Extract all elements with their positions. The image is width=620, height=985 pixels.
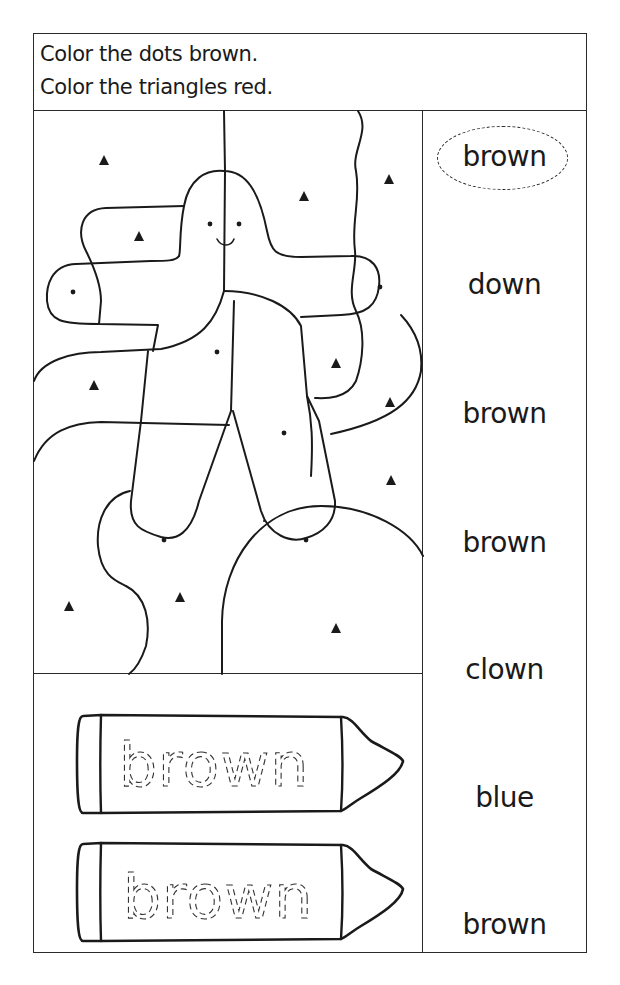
word-list: brown down brown brown clown blue brown	[423, 111, 586, 952]
hidden-picture-drawing[interactable]	[34, 111, 423, 674]
trace-word-1[interactable]: brown	[119, 730, 309, 800]
crayons-drawing: brown brown	[34, 674, 423, 952]
word-item-3[interactable]: brown	[423, 397, 586, 431]
word-item-1[interactable]: brown	[423, 140, 586, 174]
word-text: blue	[475, 781, 534, 814]
hidden-picture-panel[interactable]	[34, 111, 423, 674]
instruction-triangles: Color the triangles red.	[40, 71, 586, 104]
word-item-4[interactable]: brown	[423, 526, 586, 560]
word-text: clown	[465, 653, 543, 686]
crayon-tracing-panel: brown brown	[34, 674, 423, 952]
word-text: brown	[463, 397, 547, 430]
word-text: brown	[463, 908, 547, 941]
word-item-5[interactable]: clown	[423, 653, 586, 687]
word-text: down	[468, 268, 542, 301]
trace-word-2[interactable]: brown	[123, 862, 313, 932]
word-text: brown	[463, 526, 547, 559]
instruction-dots: Color the dots brown.	[40, 38, 586, 71]
worksheet: Color the dots brown. Color the triangle…	[33, 33, 587, 953]
word-item-2[interactable]: down	[423, 268, 586, 302]
crayon-1[interactable]: brown	[77, 715, 403, 813]
word-item-7[interactable]: brown	[423, 908, 586, 942]
word-item-6[interactable]: blue	[423, 781, 586, 815]
instructions-header: Color the dots brown. Color the triangle…	[34, 34, 586, 111]
dashed-circle-marker	[437, 126, 568, 190]
triangles	[64, 155, 396, 633]
crayon-2[interactable]: brown	[77, 843, 403, 941]
